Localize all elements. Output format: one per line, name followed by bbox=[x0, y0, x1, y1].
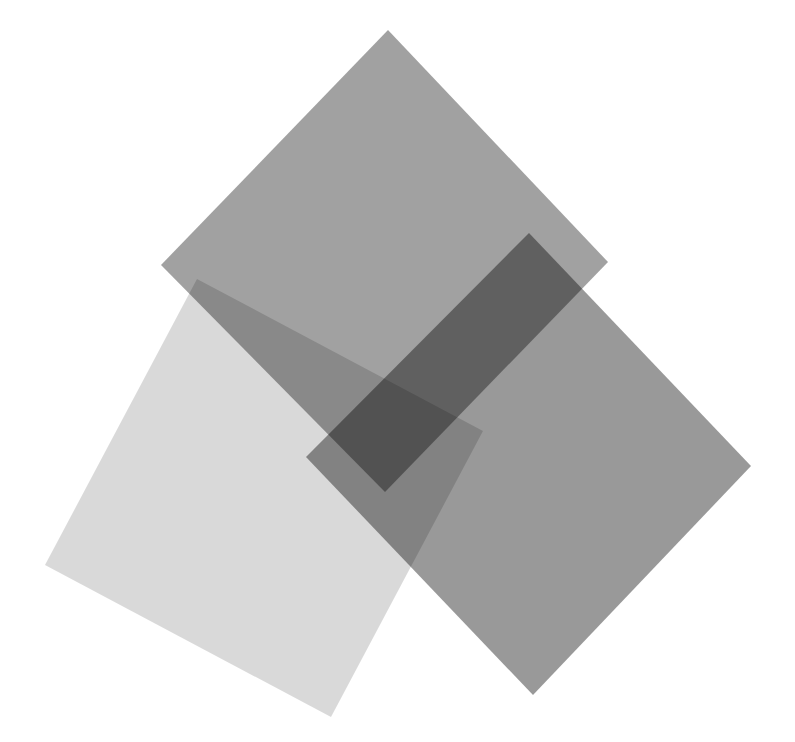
overlapping-squares-diagram bbox=[0, 0, 795, 742]
diagram-canvas bbox=[0, 0, 795, 742]
